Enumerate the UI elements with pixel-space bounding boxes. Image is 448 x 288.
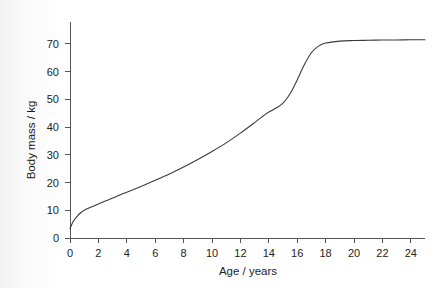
x-tick-label: 0 <box>67 248 73 259</box>
y-axis-title: Body mass / kg <box>25 101 37 180</box>
y-tick-label: 10 <box>33 205 59 216</box>
y-tick-label: 70 <box>33 38 59 49</box>
curve-body-mass <box>70 40 425 229</box>
axis-lines <box>70 22 425 238</box>
x-tick-label: 12 <box>234 248 246 259</box>
x-tick-label: 20 <box>348 248 360 259</box>
growth-chart-figure: 010203040506070 024681012141618202224 Bo… <box>0 0 448 288</box>
y-tick-label: 60 <box>33 66 59 77</box>
x-tick-label: 10 <box>206 248 218 259</box>
data-curve <box>70 40 425 229</box>
chart-plot-area <box>0 0 448 288</box>
y-tick-label: 0 <box>33 233 59 244</box>
x-tick-label: 4 <box>124 248 130 259</box>
x-tick-label: 18 <box>319 248 331 259</box>
x-tick-label: 22 <box>376 248 388 259</box>
x-tick-label: 16 <box>291 248 303 259</box>
x-tick-label: 2 <box>95 248 101 259</box>
x-tick-label: 24 <box>405 248 417 259</box>
x-axis-title: Age / years <box>219 265 277 277</box>
x-tick-label: 8 <box>181 248 187 259</box>
x-tick-label: 14 <box>263 248 275 259</box>
x-tick-label: 6 <box>152 248 158 259</box>
axis-ticks <box>65 44 411 243</box>
